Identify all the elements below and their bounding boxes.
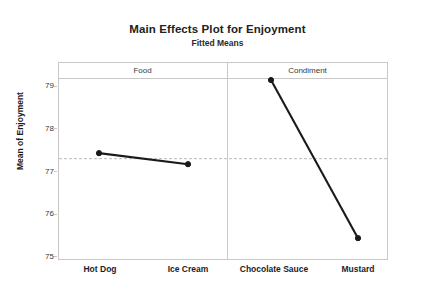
y-tick-label-78: 78 [36, 124, 54, 133]
chart-title-block: Main Effects Plot for Enjoyment Fitted M… [0, 22, 435, 49]
y-tick-label-76: 76 [36, 209, 54, 218]
x-tick-label-chocolate-sauce: Chocolate Sauce [229, 264, 319, 275]
panel-header-food: Food [58, 64, 227, 77]
y-tick-mark-79 [54, 86, 57, 87]
chart-subtitle: Fitted Means [0, 37, 435, 49]
panel-header-condiment: Condiment [227, 64, 388, 77]
plot-area [58, 62, 388, 260]
x-tick-label-ice-cream: Ice Cream [148, 264, 228, 275]
main-effects-chart: Main Effects Plot for Enjoyment Fitted M… [0, 0, 435, 305]
y-tick-mark-76 [54, 214, 57, 215]
panel-header-strip: Food Condiment [58, 62, 388, 79]
x-tick-label-mustard: Mustard [318, 264, 398, 275]
y-tick-mark-77 [54, 171, 57, 172]
y-tick-label-79: 79 [36, 81, 54, 90]
y-tick-label-75: 75 [36, 252, 54, 261]
panel-divider [227, 62, 228, 260]
x-tick-label-hot-dog: Hot Dog [60, 264, 140, 275]
y-tick-mark-75 [54, 256, 57, 257]
y-tick-label-77: 77 [36, 167, 54, 176]
chart-title: Main Effects Plot for Enjoyment [0, 22, 435, 36]
y-axis-title: Mean of Enjoyment [15, 76, 25, 186]
y-tick-mark-78 [54, 128, 57, 129]
y-axis-tick-labels: 79 78 77 76 75 [34, 0, 54, 305]
